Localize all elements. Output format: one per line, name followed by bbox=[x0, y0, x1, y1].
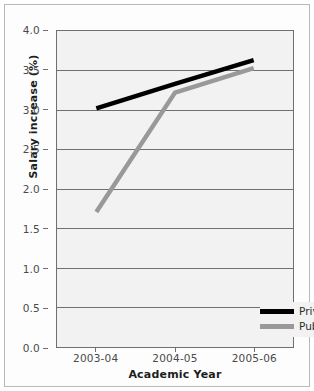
y-tick-mark bbox=[43, 268, 48, 269]
y-tick-label: 4.0 bbox=[23, 24, 40, 36]
y-tick-mark bbox=[43, 69, 48, 70]
legend-swatch-private bbox=[260, 309, 294, 314]
x-tick-label: 2003-04 bbox=[73, 352, 118, 364]
legend-swatch-public bbox=[260, 324, 294, 329]
y-tick-label: 1.0 bbox=[23, 263, 40, 275]
y-tick-label: 3.5 bbox=[23, 64, 40, 76]
y-tick-label: 2.0 bbox=[23, 183, 40, 195]
plot-area: Private Public bbox=[56, 30, 294, 348]
chart-figure: Salary increase (%) 4.03.53.02.52.01.51.… bbox=[0, 0, 314, 391]
x-tick-label: 2004-05 bbox=[152, 352, 197, 364]
plot-canvas bbox=[57, 31, 293, 347]
y-tick-mark bbox=[43, 308, 48, 309]
legend-item-private: Private bbox=[260, 304, 314, 319]
y-tick-label: 2.5 bbox=[23, 143, 40, 155]
y-tick-mark bbox=[43, 30, 48, 31]
legend-label-public: Public bbox=[299, 321, 314, 332]
y-tick-mark bbox=[43, 228, 48, 229]
legend-item-public: Public bbox=[260, 319, 314, 334]
x-tick-label: 2005-06 bbox=[232, 352, 277, 364]
series-line-public bbox=[96, 68, 253, 212]
y-tick-mark bbox=[43, 149, 48, 150]
chart-legend: Private Public bbox=[260, 302, 314, 337]
y-tick-label: 0.5 bbox=[23, 302, 40, 314]
x-axis-title: Academic Year bbox=[56, 368, 294, 381]
y-tick-mark bbox=[43, 109, 48, 110]
y-axis-tick-labels: 4.03.53.02.52.01.51.00.50.0 bbox=[0, 30, 48, 348]
legend-label-private: Private bbox=[299, 306, 314, 317]
y-tick-label: 1.5 bbox=[23, 223, 40, 235]
y-tick-mark bbox=[43, 189, 48, 190]
y-tick-label: 0.0 bbox=[23, 342, 40, 354]
y-tick-mark bbox=[43, 348, 48, 349]
series-line-private bbox=[96, 60, 253, 108]
y-tick-label: 3.0 bbox=[23, 104, 40, 116]
